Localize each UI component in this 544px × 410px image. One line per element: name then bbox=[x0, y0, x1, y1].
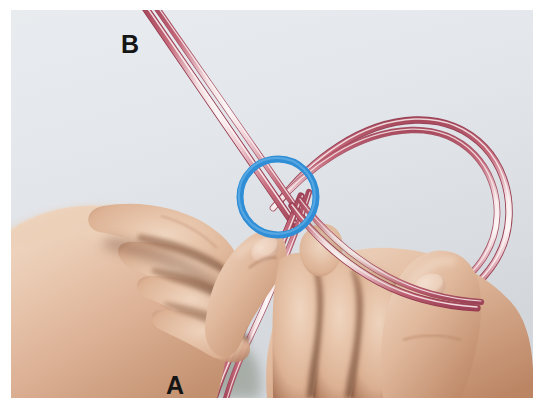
label-b: B bbox=[121, 32, 139, 57]
photo-canvas bbox=[11, 10, 533, 398]
screenshot-root: B A bbox=[0, 0, 544, 410]
instruction-photo: B A bbox=[11, 10, 533, 398]
label-a: A bbox=[166, 373, 184, 398]
label-a-text: A bbox=[166, 371, 184, 398]
label-b-text: B bbox=[121, 30, 139, 58]
